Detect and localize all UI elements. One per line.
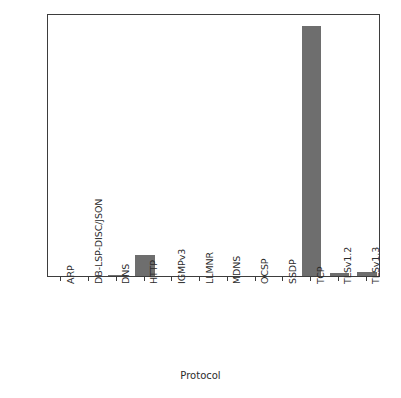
x-axis-title: Protocol bbox=[0, 370, 401, 381]
x-tick-mark bbox=[171, 277, 172, 281]
x-tick-mark bbox=[282, 277, 283, 281]
x-tick-mark bbox=[60, 277, 61, 281]
x-tick-label: HTTP bbox=[148, 260, 159, 284]
x-tick-mark bbox=[88, 277, 89, 281]
x-tick-mark bbox=[338, 277, 339, 281]
x-tick-mark bbox=[199, 277, 200, 281]
x-tick-label: DB-LSP-DISC/JSON bbox=[93, 199, 104, 284]
bar-chart-figure: 0.000.250.500.751.001.251.501.75 ARPDB-L… bbox=[0, 0, 401, 398]
x-tick-label: MDNS bbox=[231, 256, 242, 284]
x-tick-label: IGMPv3 bbox=[176, 249, 187, 284]
x-tick-mark bbox=[310, 277, 311, 281]
x-tick-label: OCSP bbox=[259, 259, 270, 284]
x-tick-mark bbox=[255, 277, 256, 281]
x-tick-mark bbox=[144, 277, 145, 281]
x-tick-mark bbox=[116, 277, 117, 281]
x-tick-label: TCP bbox=[315, 267, 326, 284]
x-tick-label: SSDP bbox=[287, 259, 298, 284]
x-tick-label: TLSv1.3 bbox=[370, 247, 381, 284]
x-tick-mark bbox=[227, 277, 228, 281]
x-tick-label: DNS bbox=[120, 264, 131, 284]
x-axis: ARPDB-LSP-DISC/JSONDNSHTTPIGMPv3LLMNRMDN… bbox=[0, 0, 401, 398]
x-tick-label: ARP bbox=[65, 265, 76, 284]
x-tick-mark bbox=[366, 277, 367, 281]
x-tick-label: LLMNR bbox=[204, 252, 215, 284]
x-tick-label: TLSv1.2 bbox=[342, 247, 353, 284]
